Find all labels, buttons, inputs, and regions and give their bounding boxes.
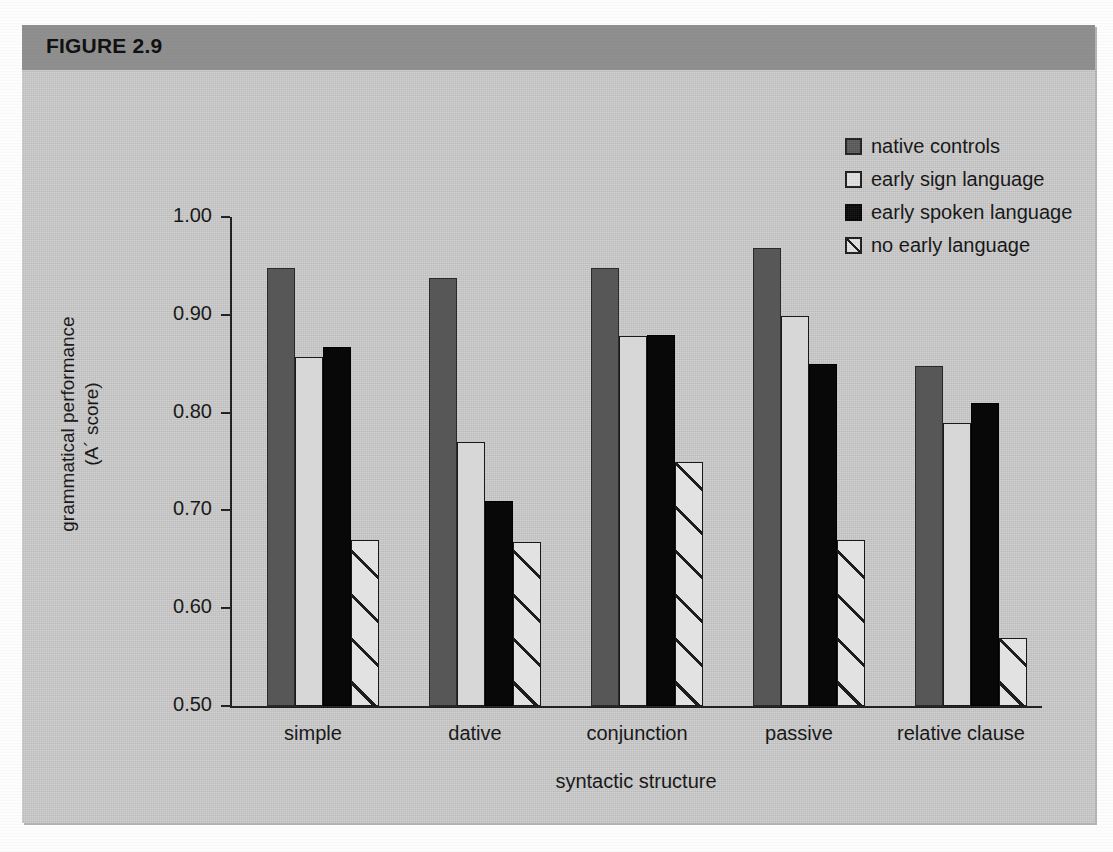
bar-no-early-language-relative-clause bbox=[999, 638, 1027, 706]
bar-early-spoken-language-simple bbox=[323, 347, 351, 706]
filled-gray-square-icon bbox=[845, 138, 862, 155]
bar-native-controls-dative bbox=[429, 278, 457, 706]
bar-native-controls-passive bbox=[753, 248, 781, 706]
chart-legend: native controlsearly sign languageearly … bbox=[845, 130, 1072, 262]
bar-group bbox=[232, 217, 394, 706]
x-axis-label-passive: passive bbox=[718, 722, 880, 745]
filled-black-square-icon bbox=[845, 204, 862, 221]
figure-number-label: FIGURE 2.9 bbox=[46, 34, 162, 58]
legend-item-early-sign-language[interactable]: early sign language bbox=[845, 163, 1072, 196]
bar-no-early-language-conjunction bbox=[675, 462, 703, 706]
bar-native-controls-conjunction bbox=[591, 268, 619, 706]
y-axis-tick bbox=[221, 412, 230, 414]
x-axis-line bbox=[230, 706, 1042, 708]
y-axis-tick bbox=[221, 509, 230, 511]
bar-early-sign-language-relative-clause bbox=[943, 423, 971, 706]
y-axis-tick-label: 0.70 bbox=[148, 497, 212, 520]
legend-label: early sign language bbox=[871, 168, 1044, 191]
bar-early-sign-language-simple bbox=[295, 357, 323, 706]
figure-card: FIGURE 2.9 1.000.900.800.700.600.50 gram… bbox=[22, 25, 1095, 823]
y-axis-title-line2: (A´ score) bbox=[81, 382, 102, 465]
legend-label: no early language bbox=[871, 234, 1030, 257]
bar-chart: 1.000.900.800.700.600.50 grammatical per… bbox=[22, 70, 1095, 823]
bars-container bbox=[232, 217, 1042, 706]
bar-group bbox=[556, 217, 718, 706]
legend-label: native controls bbox=[871, 135, 1000, 158]
hatched-square-icon bbox=[845, 237, 862, 254]
bar-early-spoken-language-relative-clause bbox=[971, 403, 999, 706]
bar-native-controls-relative-clause bbox=[915, 366, 943, 706]
bar-group bbox=[394, 217, 556, 706]
legend-item-native-controls[interactable]: native controls bbox=[845, 130, 1072, 163]
bar-no-early-language-passive bbox=[837, 540, 865, 706]
bar-group bbox=[718, 217, 880, 706]
bar-group bbox=[880, 217, 1042, 706]
bar-no-early-language-dative bbox=[513, 542, 541, 706]
chart-plot-area: 1.000.900.800.700.600.50 grammatical per… bbox=[22, 70, 1095, 823]
y-axis-title: grammatical performance (A´ score) bbox=[56, 274, 104, 574]
bar-native-controls-simple bbox=[267, 268, 295, 706]
legend-item-early-spoken-language[interactable]: early spoken language bbox=[845, 196, 1072, 229]
x-axis-label-relative-clause: relative clause bbox=[880, 722, 1042, 745]
bar-early-spoken-language-dative bbox=[485, 501, 513, 706]
bar-early-spoken-language-passive bbox=[809, 364, 837, 706]
bar-early-sign-language-conjunction bbox=[619, 336, 647, 706]
x-axis-label-conjunction: conjunction bbox=[556, 722, 718, 745]
legend-label: early spoken language bbox=[871, 201, 1072, 224]
bar-early-spoken-language-conjunction bbox=[647, 335, 675, 706]
y-axis-tick bbox=[221, 607, 230, 609]
x-axis-label-dative: dative bbox=[394, 722, 556, 745]
y-axis-tick-label: 0.50 bbox=[148, 693, 212, 716]
y-axis-title-line1: grammatical performance bbox=[57, 316, 78, 531]
y-axis-tick-label: 0.90 bbox=[148, 302, 212, 325]
y-axis-tick-label: 1.00 bbox=[148, 204, 212, 227]
y-axis-tick bbox=[221, 216, 230, 218]
bar-early-sign-language-passive bbox=[781, 316, 809, 706]
x-axis-label-simple: simple bbox=[232, 722, 394, 745]
figure-header-band: FIGURE 2.9 bbox=[22, 25, 1095, 70]
figure-page: FIGURE 2.9 1.000.900.800.700.600.50 gram… bbox=[0, 0, 1113, 852]
y-axis-tick bbox=[221, 705, 230, 707]
legend-item-no-early-language[interactable]: no early language bbox=[845, 229, 1072, 262]
bar-early-sign-language-dative bbox=[457, 442, 485, 706]
y-axis-tick bbox=[221, 314, 230, 316]
x-axis-title: syntactic structure bbox=[230, 770, 1042, 793]
bar-no-early-language-simple bbox=[351, 540, 379, 706]
y-axis-tick-label: 0.60 bbox=[148, 595, 212, 618]
y-axis-tick-label: 0.80 bbox=[148, 400, 212, 423]
open-white-square-icon bbox=[845, 171, 862, 188]
